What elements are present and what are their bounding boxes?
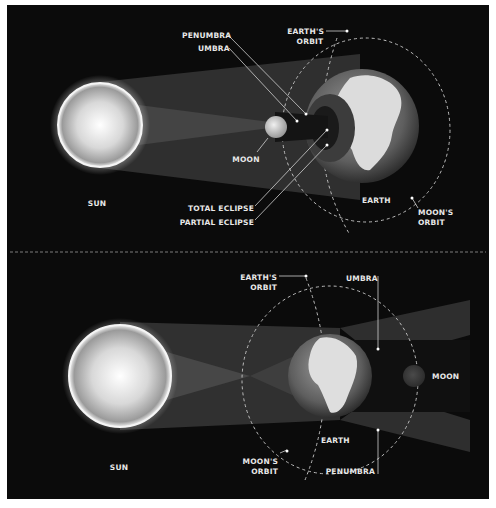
umbra-label: UMBRA [198, 44, 230, 53]
moon-label: MOON [232, 155, 259, 164]
earth-label: EARTH [321, 436, 350, 445]
sun-label: SUN [88, 199, 106, 208]
sun [69, 325, 171, 427]
sun-label: SUN [110, 463, 128, 472]
earths-orbit-label-2: ORBIT [250, 283, 277, 292]
eclipse-diagram: SUN MOON EARTH PENUMBRA UMBRA EARTH'S OR… [0, 0, 496, 508]
moons-orbit-label-1: MOON'S [418, 208, 453, 217]
penumbra-label: PENUMBRA [182, 31, 231, 40]
moons-orbit-label-2: ORBIT [251, 467, 278, 476]
moon-label: MOON [432, 372, 459, 381]
moon [265, 116, 287, 138]
earths-orbit-label-1: EARTH'S [287, 27, 324, 36]
moons-orbit-label-1: MOON'S [243, 457, 278, 466]
total-eclipse-label: TOTAL ECLIPSE [188, 204, 254, 213]
sun [58, 83, 142, 167]
earths-orbit-label-1: EARTH'S [240, 273, 277, 282]
umbra-label: UMBRA [346, 274, 378, 283]
earths-orbit-label-2: ORBIT [297, 37, 324, 46]
moon [403, 365, 425, 387]
penumbra-label: PENUMBRA [326, 467, 375, 476]
earth-label: EARTH [362, 196, 391, 205]
partial-eclipse-label: PARTIAL ECLIPSE [180, 218, 254, 227]
moons-orbit-label-2: ORBIT [418, 218, 445, 227]
